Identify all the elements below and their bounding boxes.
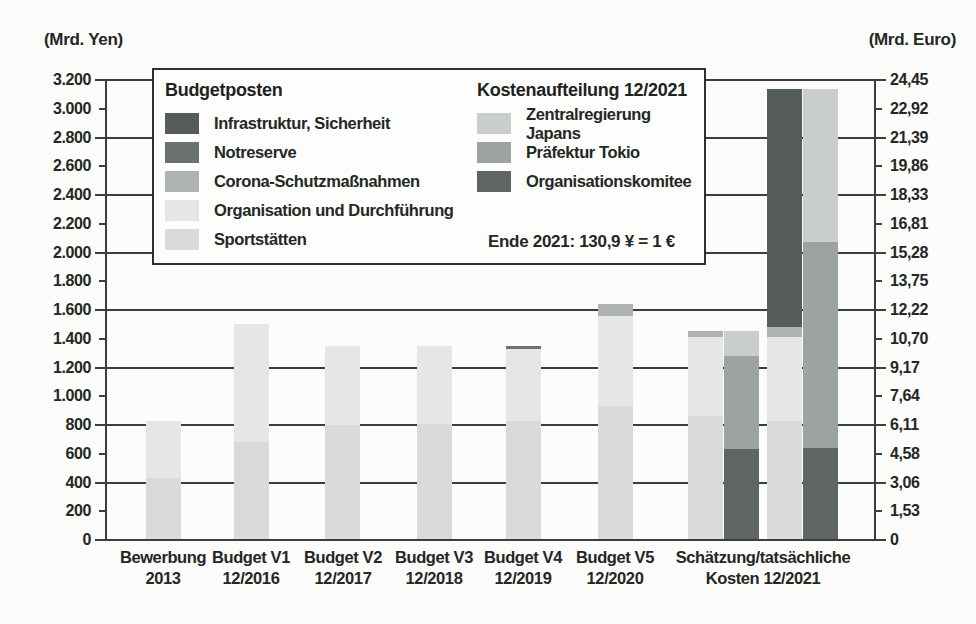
euro-axis-tick	[875, 510, 882, 512]
euro-axis-tick-label: 22,92	[890, 100, 950, 118]
bar-segment-bewerbung-2013	[146, 478, 181, 540]
yen-axis-tick-label: 1.600	[31, 301, 91, 319]
euro-axis-tick	[875, 137, 886, 139]
bar-segment-budget-v2-12-2017	[325, 425, 360, 540]
bar-segment-bewerbung-2013	[146, 421, 181, 479]
bar-segment-budget-v1-12-2016	[234, 442, 269, 540]
euro-axis-tick	[875, 194, 886, 196]
euro-axis-tick-label: 21,39	[890, 129, 950, 147]
euro-axis-tick-label: 15,28	[890, 244, 950, 262]
yen-axis-tick-label: 400	[31, 474, 91, 492]
legend-item-budgetposten: Organisation und Durchführung	[165, 196, 465, 225]
yen-axis-tick-label: 1.200	[31, 359, 91, 377]
bar-segment-tatsaechliche-kosten-12-2021-budgetposten	[767, 327, 802, 337]
euro-axis-tick-label: 6,11	[890, 416, 950, 434]
bar-segment-tatsaechliche-kosten-12-2021-budgetposten	[767, 337, 802, 420]
gridline	[106, 367, 875, 369]
euro-axis-tick-label: 12,22	[890, 301, 950, 319]
gridline	[106, 309, 875, 311]
bar-segment-budget-v5-12-2020	[598, 406, 633, 540]
legend-item-kostenaufteilung: Zentralregierung Japans	[477, 109, 699, 138]
bar-segment-budget-v4-12-2019	[506, 349, 541, 421]
euro-axis-tick-label: 0	[890, 531, 950, 549]
bar-segment-budget-v5-12-2020	[598, 316, 633, 407]
yen-axis-tick-label: 800	[31, 416, 91, 434]
euro-axis-tick	[875, 252, 886, 254]
x-axis-label: Schätzung/tatsächliche Kosten 12/2021	[653, 547, 873, 589]
legend-column-budgetposten: Budgetposten Infrastruktur, SicherheitNo…	[165, 78, 465, 254]
legend-items-budgetposten: Infrastruktur, SicherheitNotreserveCoron…	[165, 109, 465, 254]
bar-segment-schaetzung-12-2021-kostenaufteilung	[724, 449, 759, 540]
euro-axis-tick-label: 16,81	[890, 215, 950, 233]
yen-axis-tick-label: 2.200	[31, 215, 91, 233]
euro-axis-line	[874, 79, 876, 541]
bar-segment-tatsaechliche-kosten-12-2021-budgetposten	[767, 89, 802, 328]
bar-segment-schaetzung-12-2021-budgetposten	[688, 331, 723, 337]
legend-item-budgetposten: Infrastruktur, Sicherheit	[165, 109, 465, 138]
bar-segment-tatsaechliche-kosten-12-2021-budgetposten	[767, 421, 802, 540]
legend-item-budgetposten: Notreserve	[165, 138, 465, 167]
yen-axis-tick-label: 2.400	[31, 186, 91, 204]
legend-swatch	[477, 142, 511, 163]
legend-item-label: Notreserve	[214, 143, 296, 162]
bar-segment-budget-v1-12-2016	[234, 324, 269, 442]
euro-axis-tick-label: 24,45	[890, 71, 950, 89]
legend-item-label: Zentralregierung Japans	[526, 105, 699, 143]
euro-axis-tick-label: 10,70	[890, 330, 950, 348]
legend-item-label: Präfektur Tokio	[526, 143, 640, 162]
legend-items-kostenaufteilung: Zentralregierung JapansPräfektur TokioOr…	[477, 109, 699, 196]
euro-axis-tick	[875, 108, 882, 110]
legend-item-kostenaufteilung: Organisationskomitee	[477, 167, 699, 196]
euro-axis-tick	[875, 482, 886, 484]
legend-swatch	[165, 113, 199, 134]
yen-axis-tick-label: 1.000	[31, 387, 91, 405]
euro-axis-tick	[875, 367, 886, 369]
bar-segment-tatsaechliche-kosten-12-2021-kostenaufteilung	[803, 448, 838, 540]
yen-axis-tick-label: 200	[31, 502, 91, 520]
euro-axis-tick	[875, 338, 882, 340]
yen-axis-tick-label: 2.800	[31, 129, 91, 147]
legend-swatch	[477, 113, 511, 134]
euro-axis-title: (Mrd. Euro)	[869, 30, 956, 50]
euro-axis-tick-label: 7,64	[890, 387, 950, 405]
euro-axis-tick	[875, 395, 882, 397]
gridline	[106, 482, 875, 484]
bar-segment-budget-v3-12-2018	[417, 424, 452, 540]
yen-axis-tick-label: 2.600	[31, 157, 91, 175]
bar-segment-budget-v3-12-2018	[417, 346, 452, 424]
bar-segment-budget-v4-12-2019	[506, 421, 541, 540]
yen-axis-tick-label: 3.200	[31, 71, 91, 89]
legend-swatch	[165, 200, 199, 221]
euro-axis-tick	[875, 280, 882, 282]
legend-swatch	[165, 142, 199, 163]
legend-swatch	[477, 171, 511, 192]
legend-swatch	[165, 171, 199, 192]
yen-axis-tick-label: 3.000	[31, 100, 91, 118]
bar-segment-schaetzung-12-2021-kostenaufteilung	[724, 331, 759, 356]
legend-box: Budgetposten Infrastruktur, SicherheitNo…	[152, 68, 706, 265]
euro-axis-tick-label: 19,86	[890, 157, 950, 175]
chart-canvas: (Mrd. Yen) (Mrd. Euro) Budgetposten Infr…	[0, 0, 976, 624]
yen-axis-tick-label: 600	[31, 445, 91, 463]
euro-axis-tick	[875, 309, 886, 311]
euro-axis-tick-label: 3,06	[890, 474, 950, 492]
legend-item-budgetposten: Corona-Schutzmaßnahmen	[165, 167, 465, 196]
bar-segment-budget-v4-12-2019	[506, 346, 541, 349]
bar-segment-budget-v2-12-2017	[325, 346, 360, 425]
bar-segment-schaetzung-12-2021-budgetposten	[688, 416, 723, 540]
legend-item-label: Sportstätten	[214, 230, 306, 249]
legend-title-kostenaufteilung: Kostenaufteilung 12/2021	[477, 80, 699, 101]
legend-column-kostenaufteilung: Kostenaufteilung 12/2021 Zentralregierun…	[477, 78, 699, 196]
bar-segment-budget-v5-12-2020	[598, 304, 633, 316]
euro-axis-tick	[875, 424, 886, 426]
legend-title-budgetposten: Budgetposten	[165, 80, 465, 101]
euro-axis-tick	[875, 79, 886, 81]
euro-axis-tick	[875, 539, 886, 541]
yen-axis-tick-label: 1.400	[31, 330, 91, 348]
legend-item-label: Organisation und Durchführung	[214, 201, 454, 220]
euro-axis-tick-label: 9,17	[890, 359, 950, 377]
yen-axis-tick-label: 2.000	[31, 244, 91, 262]
yen-axis-title: (Mrd. Yen)	[44, 30, 123, 50]
euro-axis-tick	[875, 165, 882, 167]
bar-segment-schaetzung-12-2021-kostenaufteilung	[724, 356, 759, 449]
